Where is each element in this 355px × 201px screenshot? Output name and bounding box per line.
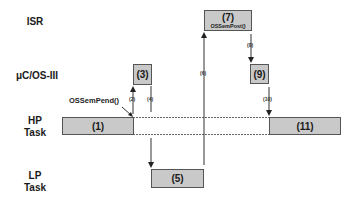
box-7-label: (7) [222,12,234,23]
lp-task-run-box-5: (5) [151,169,204,188]
box-9-label: (9) [253,69,265,80]
step-8-label: (8) [247,42,253,48]
hp-task-run-box-11: (11) [269,117,341,135]
box-11-label: (11) [296,121,313,132]
box-7-sublabel: OSSemPost() [210,23,245,29]
step-4-label: (4) [147,96,153,102]
box-5-label: (5) [171,173,183,184]
box-1-label: (1) [92,121,104,132]
step-10-label: (10) [263,96,272,102]
step-6-label: (6) [200,70,206,76]
arrow-2-head [130,86,136,92]
step-2-label: (2) [129,96,135,102]
ossempend-call-label: OSSemPend() [69,96,119,105]
isr-box-7: (7) OSSemPost() [204,10,252,31]
box-3-label: (3) [136,69,148,80]
kernel-box-3: (3) [133,64,152,85]
kernel-box-9: (9) [250,64,269,84]
hp-task-run-box-1: (1) [62,117,134,135]
